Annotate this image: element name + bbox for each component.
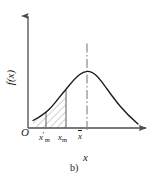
y-axis-label: f(x) [5, 58, 16, 98]
tick-label-x-bar: x [78, 132, 82, 141]
origin-label: O [21, 127, 29, 138]
tick-label-xm: xm [58, 133, 67, 142]
figure-caption: b) [70, 163, 78, 173]
tick-label-xm-prime: x′m [39, 133, 50, 142]
distribution-plot [0, 0, 156, 178]
figure-container: f(x) O x′m xm x x b) [0, 0, 156, 178]
x-axis-label: x [83, 152, 88, 163]
